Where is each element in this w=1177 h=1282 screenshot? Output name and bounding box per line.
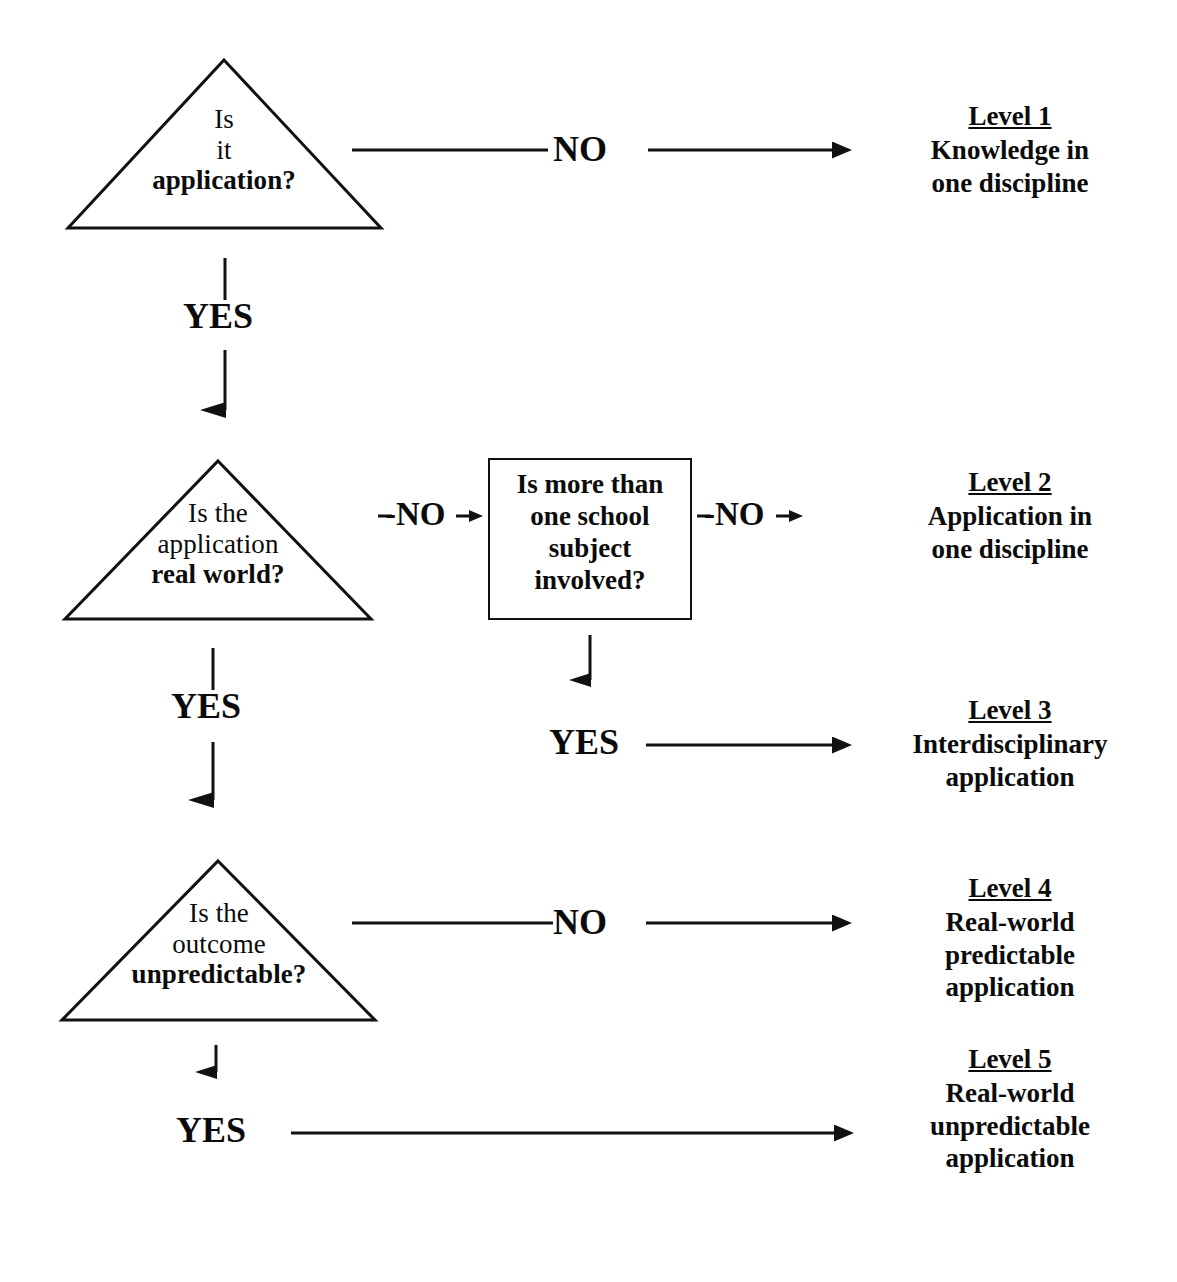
decision-triangle-3-label: Is the outcome unpredictable? bbox=[99, 898, 339, 990]
box-line-1: Is more than bbox=[488, 469, 692, 501]
outcome-level-4: Level 4 Real-world predictable applicati… bbox=[860, 872, 1160, 1004]
level-5-line-1: Real-world bbox=[860, 1077, 1160, 1109]
level-2-line-2: one discipline bbox=[860, 533, 1160, 565]
triangle-3-line-1: Is the bbox=[99, 898, 339, 929]
triangle-1-line-3: application? bbox=[124, 165, 324, 196]
level-2-line-1: Application in bbox=[860, 500, 1160, 532]
edge-label-yes-4: YES bbox=[176, 1112, 246, 1148]
edge-label-no-3: -NO bbox=[704, 498, 765, 531]
triangle-1-line-1: Is bbox=[124, 104, 324, 135]
level-4-line-2: predictable bbox=[860, 939, 1160, 971]
level-5-line-3: application bbox=[860, 1142, 1160, 1174]
triangle-1-line-2: it bbox=[124, 135, 324, 166]
decision-triangle-2-label: Is the application real world? bbox=[118, 498, 318, 590]
box-line-2: one school bbox=[488, 501, 692, 533]
triangle-3-line-3: unpredictable? bbox=[99, 959, 339, 990]
level-5-title: Level 5 bbox=[860, 1043, 1160, 1075]
flowchart-canvas: Level 1 : split line around the NO label… bbox=[0, 0, 1177, 1282]
box-line-3: subject bbox=[488, 533, 692, 565]
box-line-4: involved? bbox=[488, 565, 692, 597]
edge-label-no-1: NO bbox=[553, 131, 607, 167]
outcome-level-2: Level 2 Application in one discipline bbox=[860, 466, 1160, 565]
decision-triangle-1-label: Is it application? bbox=[124, 104, 324, 196]
level-4-line-1: Real-world bbox=[860, 906, 1160, 938]
triangle-2-line-3: real world? bbox=[118, 559, 318, 590]
triangle-2-line-2: application bbox=[118, 529, 318, 560]
level-2-title: Level 2 bbox=[860, 466, 1160, 498]
outcome-level-3: Level 3 Interdisciplinary application bbox=[860, 694, 1160, 793]
level-1-line-2: one discipline bbox=[860, 167, 1160, 199]
level-3-title: Level 3 bbox=[860, 694, 1160, 726]
triangle-3-line-2: outcome bbox=[99, 929, 339, 960]
level-1-title: Level 1 bbox=[860, 100, 1160, 132]
level-3-line-2: application bbox=[860, 761, 1160, 793]
decision-box-label: Is more than one school subject involved… bbox=[488, 469, 692, 596]
level-4-line-3: application bbox=[860, 971, 1160, 1003]
level-5-line-2: unpredictable bbox=[860, 1110, 1160, 1142]
level-3-line-1: Interdisciplinary bbox=[860, 728, 1160, 760]
triangle-2-line-1: Is the bbox=[118, 498, 318, 529]
edge-label-yes-3: YES bbox=[549, 724, 619, 760]
level-1-line-1: Knowledge in bbox=[860, 134, 1160, 166]
outcome-level-1: Level 1 Knowledge in one discipline bbox=[860, 100, 1160, 199]
edge-label-yes-1: YES bbox=[183, 298, 253, 334]
outcome-level-5: Level 5 Real-world unpredictable applica… bbox=[860, 1043, 1160, 1175]
level-4-title: Level 4 bbox=[860, 872, 1160, 904]
edge-label-yes-2: YES bbox=[171, 688, 241, 724]
edge-label-no-2: -NO bbox=[385, 498, 446, 531]
edge-label-no-4: NO bbox=[553, 904, 607, 940]
